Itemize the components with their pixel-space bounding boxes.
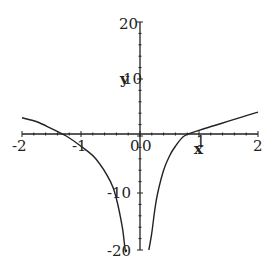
x-tick-label: 0	[130, 137, 140, 155]
x-tick-label: -1	[72, 137, 87, 155]
y-tick-label: -20	[107, 242, 131, 260]
y-tick-label: -10	[107, 184, 131, 202]
y-tick-label: 20	[119, 15, 138, 33]
plot-canvas: -2 -1 0 0 1 2 20 10 -10 -20 x y	[0, 0, 275, 277]
x-tick-label: -2	[12, 137, 27, 155]
x-tick-label: 2	[253, 137, 263, 155]
axis-ticks	[22, 22, 258, 250]
x-tick-label: 0	[142, 137, 152, 155]
y-axis-label: y	[119, 70, 130, 88]
x-axis-label: x	[194, 140, 204, 158]
